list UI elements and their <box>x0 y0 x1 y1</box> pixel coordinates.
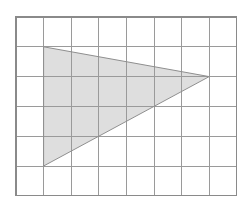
grid-triangle-figure <box>0 0 251 206</box>
figure-root <box>0 0 251 206</box>
